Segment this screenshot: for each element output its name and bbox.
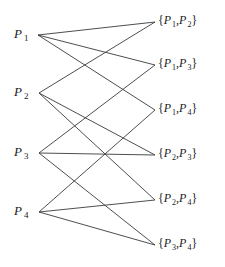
edge-P4-P3P4 bbox=[39, 212, 155, 245]
close-brace: } bbox=[191, 236, 197, 250]
letter: P bbox=[179, 13, 186, 27]
edge-P1-P1P3 bbox=[38, 35, 155, 65]
letter: P bbox=[179, 236, 186, 250]
close-brace: } bbox=[191, 101, 197, 115]
close-brace: } bbox=[191, 13, 197, 27]
node-p2-p3: {P2,P3} bbox=[158, 147, 197, 162]
edge-P1-P1P4 bbox=[38, 35, 155, 110]
node-subscript: 4 bbox=[24, 210, 29, 220]
edge-P4-P2P4 bbox=[39, 200, 155, 212]
letter: P bbox=[164, 101, 171, 115]
letter: P bbox=[164, 191, 171, 205]
edges-layer bbox=[0, 0, 225, 267]
close-brace: } bbox=[191, 56, 197, 70]
letter: P bbox=[164, 146, 171, 160]
close-brace: } bbox=[191, 146, 197, 160]
letter: P bbox=[179, 101, 186, 115]
close-brace: } bbox=[191, 191, 197, 205]
letter: P bbox=[179, 146, 186, 160]
edge-P2-P2P3 bbox=[39, 93, 155, 155]
node-subscript: 3 bbox=[24, 151, 29, 161]
letter: P bbox=[179, 191, 186, 205]
edge-P3-P3P4 bbox=[39, 153, 155, 245]
node-letter: P bbox=[14, 203, 22, 218]
edge-P4-P1P4 bbox=[39, 110, 155, 212]
letter: P bbox=[164, 13, 171, 27]
edge-P3-P2P3 bbox=[39, 153, 155, 155]
node-letter: P bbox=[14, 144, 22, 159]
letter: P bbox=[164, 236, 171, 250]
node-subscript: 2 bbox=[24, 91, 29, 101]
node-p2-p4: {P2,P4} bbox=[158, 192, 197, 207]
node-p1-p3: {P1,P3} bbox=[158, 57, 197, 72]
node-p1-p4: {P1,P4} bbox=[158, 102, 197, 117]
node-p2: P2 bbox=[14, 85, 28, 101]
node-subscript: 1 bbox=[24, 33, 29, 43]
node-letter: P bbox=[14, 26, 22, 41]
node-letter: P bbox=[14, 84, 22, 99]
node-p1: P1 bbox=[14, 27, 28, 43]
node-p3-p4: {P3,P4} bbox=[158, 237, 197, 252]
node-p1-p2: {P1,P2} bbox=[158, 14, 197, 29]
letter: P bbox=[179, 56, 186, 70]
letter: P bbox=[164, 56, 171, 70]
node-p4: P4 bbox=[14, 204, 28, 220]
node-p3: P3 bbox=[14, 145, 28, 161]
